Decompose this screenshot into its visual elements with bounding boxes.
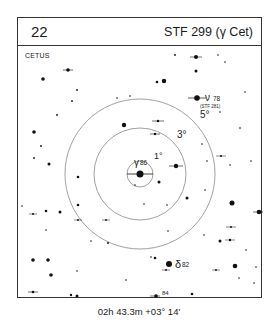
circle-5deg-label: 5° bbox=[200, 109, 210, 120]
circle-1deg-label: 1° bbox=[154, 151, 163, 161]
coordinates: 02h 43.3m +03° 14' bbox=[0, 306, 278, 317]
gamma-mag: 86 bbox=[140, 159, 148, 166]
gamma-label: γ bbox=[134, 157, 139, 168]
nu-designation: (STF 281) bbox=[200, 104, 221, 109]
delta-mag: 82 bbox=[182, 261, 190, 268]
chart-labels: γ 86 1° 3° 5° ν 78 (STF 281) δ 82 84 bbox=[134, 92, 221, 296]
stars bbox=[21, 54, 263, 298]
circle-3deg-label: 3° bbox=[177, 129, 187, 140]
nu-mag: 78 bbox=[213, 95, 221, 102]
star-chart: γ 86 1° 3° 5° ν 78 (STF 281) δ 82 84 bbox=[0, 0, 278, 330]
mag84-label: 84 bbox=[162, 290, 169, 296]
delta-label: δ bbox=[175, 258, 181, 270]
nu-label: ν bbox=[205, 92, 210, 103]
